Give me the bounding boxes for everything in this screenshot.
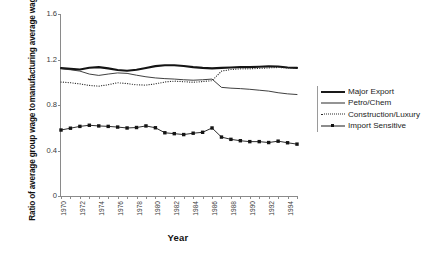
series-marker	[248, 140, 251, 143]
series-marker	[116, 125, 119, 128]
y-axis-tick-label: 0.8	[46, 101, 57, 109]
x-axis-tick-mark	[99, 196, 100, 199]
series-marker	[201, 131, 204, 134]
x-axis-tick-label: 1982	[174, 201, 181, 216]
series-marker	[163, 131, 166, 134]
x-axis-tick-label: 1974	[98, 201, 105, 216]
x-axis-tick-mark	[108, 196, 109, 199]
x-axis-tick-mark	[165, 196, 166, 199]
x-axis-tick-mark	[137, 196, 138, 199]
x-axis-tick-mark	[288, 196, 289, 199]
series-marker	[267, 141, 270, 144]
series-marker	[154, 126, 157, 129]
x-axis-tick-label: 1970	[61, 201, 68, 216]
y-axis-tick-label: 1.6	[46, 10, 57, 18]
series-marker	[276, 139, 279, 142]
x-axis-tick-mark	[127, 196, 128, 199]
series-marker	[88, 124, 91, 127]
legend-label: Import Sensitive	[348, 121, 406, 130]
x-axis-tick-mark	[89, 196, 90, 199]
series-marker	[239, 139, 242, 142]
x-axis-tick-mark	[174, 196, 175, 199]
legend-item-major-export: Major Export	[318, 86, 446, 97]
x-axis-tick-mark	[203, 196, 204, 199]
x-axis-tick-mark	[118, 196, 119, 199]
legend-swatch-dotted-icon	[321, 110, 345, 119]
legend-label: Major Export	[348, 87, 394, 96]
y-axis-title-line-2: manufacturing average wage	[28, 0, 38, 102]
series-marker	[59, 128, 62, 131]
y-axis-tick-label: 0	[53, 192, 57, 200]
x-axis-tick-label: 1984	[193, 201, 200, 216]
series-layer	[61, 14, 297, 196]
series-line	[61, 65, 297, 71]
x-axis-tick-mark	[221, 196, 222, 199]
legend-item-import-sensitive: Import Sensitive	[318, 120, 446, 131]
legend-swatch-solid-thin-icon	[321, 98, 345, 107]
x-axis-tick-label: 1994	[287, 201, 294, 216]
x-axis-tick-mark	[61, 196, 62, 199]
x-axis-tick-label: 1980	[155, 201, 162, 216]
series-marker	[220, 135, 223, 138]
x-axis-tick-label: 1990	[250, 201, 257, 216]
y-axis-title: Ratio of average group wage to manufactu…	[18, 12, 48, 202]
x-axis-tick-label: 1988	[231, 201, 238, 216]
x-axis-tick-mark	[240, 196, 241, 199]
x-axis-tick-mark	[80, 196, 81, 199]
x-axis-tick-label: 1976	[117, 201, 124, 216]
series-line	[61, 69, 297, 95]
series-marker	[286, 141, 289, 144]
series-marker	[191, 132, 194, 135]
legend-swatch-solid-thick-icon	[321, 87, 345, 96]
x-axis-tick-mark	[70, 196, 71, 199]
x-axis-tick-mark	[278, 196, 279, 199]
x-axis-tick-mark	[193, 196, 194, 199]
x-axis-tick-label: 1978	[136, 201, 143, 216]
x-axis-tick-mark	[146, 196, 147, 199]
y-axis-title-line-1: Ratio of average group wage to	[28, 103, 38, 220]
series-marker	[78, 125, 81, 128]
series-marker	[295, 142, 298, 145]
x-axis-tick-mark	[212, 196, 213, 199]
legend-label: Petro/Chem	[348, 98, 391, 107]
legend-item-construction-luxury: Construction/Luxury	[318, 109, 446, 120]
chart-figure: Ratio of average group wage to manufactu…	[0, 0, 446, 261]
x-axis-tick-mark	[250, 196, 251, 199]
x-axis-tick-label: 1972	[80, 201, 87, 216]
x-axis-tick-label: 1986	[212, 201, 219, 216]
series-line	[61, 125, 297, 144]
x-axis-tick-mark	[259, 196, 260, 199]
series-marker	[229, 138, 232, 141]
legend-label: Construction/Luxury	[348, 110, 420, 119]
plot-area: 00.40.81.21.6197019721974197619781980198…	[60, 14, 297, 197]
x-axis-title: Year	[60, 232, 296, 243]
series-marker	[258, 140, 261, 143]
x-axis-tick-mark	[184, 196, 185, 199]
x-axis-tick-mark	[155, 196, 156, 199]
x-axis-tick-label: 1992	[268, 201, 275, 216]
chart-legend: Major Export Petro/Chem Construction/Lux…	[317, 86, 446, 132]
series-marker	[173, 132, 176, 135]
series-marker	[107, 125, 110, 128]
series-marker	[69, 127, 72, 130]
series-marker	[144, 124, 147, 127]
series-marker	[125, 126, 128, 129]
series-marker	[135, 126, 138, 129]
series-marker	[97, 124, 100, 127]
y-axis-tick-label: 0.4	[46, 147, 57, 155]
x-axis-tick-mark	[297, 196, 298, 199]
series-marker	[182, 133, 185, 136]
x-axis-tick-mark	[231, 196, 232, 199]
y-axis-tick-label: 1.2	[46, 56, 57, 64]
series-marker	[210, 126, 213, 129]
legend-item-petro-chem: Petro/Chem	[318, 97, 446, 108]
legend-swatch-marker-line-icon	[321, 121, 345, 130]
series-line	[61, 67, 297, 86]
x-axis-tick-mark	[269, 196, 270, 199]
